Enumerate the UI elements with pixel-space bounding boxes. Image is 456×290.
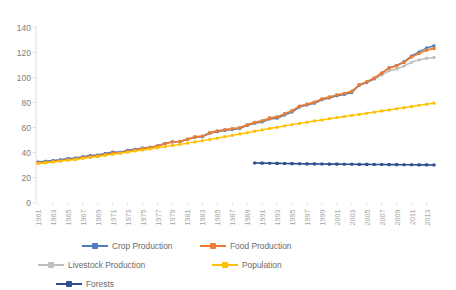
series-marker	[208, 131, 211, 134]
series-marker	[261, 128, 264, 131]
y-axis-tick: 60	[22, 123, 32, 133]
legend-label-food-production: Food Production	[230, 241, 291, 251]
x-axis-tick: 1971	[109, 210, 118, 226]
series-marker	[74, 158, 77, 161]
series-marker	[216, 130, 219, 133]
series-marker	[89, 156, 92, 159]
x-axis-tick: 1997	[303, 210, 312, 226]
legend-item-livestock-production[interactable]: Livestock Production	[38, 255, 168, 274]
x-axis-tick: 1973	[124, 210, 133, 226]
x-axis-tick: 1987	[228, 210, 237, 226]
series-marker	[417, 52, 420, 55]
series-marker	[433, 56, 436, 59]
series-marker	[298, 162, 301, 165]
series-marker	[425, 49, 428, 52]
x-axis-tick: 1975	[139, 210, 148, 226]
data-series-layer	[36, 44, 435, 166]
series-marker	[358, 163, 361, 166]
series-marker	[238, 126, 241, 129]
series-marker	[253, 161, 256, 164]
series-marker	[253, 121, 256, 124]
series-marker	[119, 152, 122, 155]
series-marker	[373, 163, 376, 166]
series-marker	[290, 162, 293, 165]
series-marker	[410, 105, 413, 108]
series-marker	[380, 71, 383, 74]
series-marker	[246, 131, 249, 134]
legend-label-livestock-production: Livestock Production	[68, 260, 145, 270]
series-marker	[231, 127, 234, 130]
x-axis-tick: 2005	[363, 210, 372, 226]
series-marker	[104, 154, 107, 157]
series-marker	[395, 107, 398, 110]
x-axis-tick: 1999	[318, 210, 327, 226]
series-marker	[350, 114, 353, 117]
series-marker	[380, 163, 383, 166]
y-axis-tick: 140	[17, 23, 31, 33]
series-marker	[388, 66, 391, 69]
series-marker	[275, 116, 278, 119]
series-marker	[291, 123, 294, 126]
series-marker	[365, 80, 368, 83]
series-marker	[432, 47, 435, 50]
chart-container: 020406080100120140 196119631965196719691…	[0, 0, 456, 290]
series-line	[38, 48, 434, 163]
series-marker	[328, 163, 331, 166]
series-marker	[380, 110, 383, 113]
series-marker	[388, 69, 391, 72]
series-marker	[343, 92, 346, 95]
x-axis-tick: 2001	[333, 210, 342, 226]
legend-item-food-production[interactable]: Food Production	[200, 236, 320, 255]
series-marker	[335, 163, 338, 166]
series-marker	[320, 118, 323, 121]
series-marker	[418, 59, 421, 62]
series-marker	[283, 162, 286, 165]
series-marker	[253, 130, 256, 133]
series-marker	[268, 162, 271, 165]
series-marker	[328, 117, 331, 120]
series-marker	[365, 163, 368, 166]
legend-item-crop-production[interactable]: Crop Production	[82, 236, 182, 255]
series-marker	[403, 61, 406, 64]
series-marker	[231, 134, 234, 137]
legend-item-forests[interactable]: Forests	[56, 274, 176, 290]
legend-marker-livestock-production	[38, 260, 64, 269]
series-marker	[261, 119, 264, 122]
series-population	[37, 102, 436, 165]
series-marker	[208, 138, 211, 141]
series-marker	[320, 162, 323, 165]
x-axis-tick: 1991	[258, 210, 267, 226]
series-marker	[37, 162, 40, 165]
series-forests	[253, 161, 436, 166]
legend-marker-population	[212, 260, 238, 269]
y-axis-tick: 20	[22, 173, 32, 183]
series-marker	[246, 123, 249, 126]
series-marker	[268, 117, 271, 120]
series-marker	[276, 126, 279, 129]
series-marker	[350, 90, 353, 93]
series-marker	[216, 137, 219, 140]
y-axis-tick: 40	[22, 148, 32, 158]
y-axis-tick-labels: 020406080100120140	[17, 23, 31, 208]
series-marker	[96, 155, 99, 158]
y-axis-tick: 100	[17, 73, 31, 83]
series-marker	[313, 101, 316, 104]
series-marker	[193, 140, 196, 143]
series-marker	[283, 112, 286, 115]
x-axis-tick: 1995	[288, 210, 297, 226]
x-axis-tick: 1981	[183, 210, 192, 226]
legend-label-forests: Forests	[86, 279, 114, 289]
series-marker	[388, 108, 391, 111]
series-marker	[223, 135, 226, 138]
x-axis-tick: 1983	[198, 210, 207, 226]
series-marker	[171, 140, 174, 143]
legend-marker-food-production	[200, 241, 226, 250]
chart-legend: Crop Production Food Production Livestoc…	[38, 236, 438, 290]
series-food-production	[36, 47, 435, 165]
series-marker	[373, 111, 376, 114]
series-marker	[425, 163, 428, 166]
y-axis-tick: 0	[26, 198, 31, 208]
series-marker	[51, 161, 54, 164]
series-marker	[432, 163, 435, 166]
legend-item-population[interactable]: Population	[212, 255, 312, 274]
